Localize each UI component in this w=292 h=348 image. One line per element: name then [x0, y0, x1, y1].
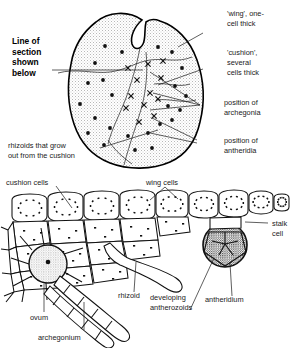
chloroplast-mark [77, 206, 79, 208]
cell-cushion [120, 218, 158, 242]
chloroplast-mark [175, 230, 177, 232]
label-antheridium: antheridium [205, 295, 244, 304]
antheridium-marker [108, 126, 112, 130]
label-stalk-cell: stalk cell [272, 219, 289, 238]
antheridium-marker [126, 134, 130, 138]
antheridium-marker [93, 61, 97, 65]
label-ovum: ovum [30, 313, 48, 322]
chloroplast-mark [224, 202, 226, 204]
stalk-cell [210, 217, 241, 229]
chloroplast-mark [33, 239, 35, 241]
chloroplast-mark [90, 205, 92, 207]
chloroplast-mark [119, 271, 121, 273]
chloroplast-mark [23, 230, 25, 232]
chloroplast-mark [149, 204, 151, 206]
chloroplast-mark [102, 269, 104, 271]
label-rhizoid: rhizoid [118, 291, 140, 300]
chloroplast-mark [182, 203, 184, 205]
chloroplast-mark [75, 230, 77, 232]
label-wing-cells: wing cells [145, 178, 178, 187]
chloroplast-mark [268, 201, 270, 203]
chloroplast-mark [252, 201, 254, 203]
chloroplast-mark [277, 201, 279, 203]
fern-prothallus-diagram: Line of section shown below 'wing', one-… [0, 0, 292, 348]
chloroplast-mark [126, 204, 128, 206]
antheridium-marker [178, 108, 182, 112]
chloroplast-mark [94, 227, 96, 229]
chloroplast-mark [112, 278, 114, 280]
chloroplast-mark [113, 205, 115, 207]
label-wing: 'wing', one- cell thick [227, 9, 266, 28]
chloroplast-mark [72, 260, 74, 262]
chloroplast-mark [182, 223, 184, 225]
chloroplast-mark [213, 203, 215, 205]
chloroplast-mark [76, 282, 78, 284]
label-line-of-section: Line of section shown below [12, 36, 44, 78]
chloroplast-mark [130, 226, 132, 228]
chloroplast-mark [79, 253, 81, 255]
chloroplast-mark [111, 229, 113, 231]
leader-stalk-cell [245, 222, 268, 223]
antheridium-marker [101, 78, 105, 82]
antheridium-marker [86, 81, 90, 85]
chloroplast-mark [40, 285, 42, 287]
chloroplast-mark [243, 202, 245, 204]
chloroplast-mark [194, 203, 196, 205]
chloroplast-mark [58, 228, 60, 230]
chloroplast-mark [68, 237, 70, 239]
label-antheridia: position of antheridia [224, 136, 260, 155]
chloroplast-mark [30, 276, 32, 278]
chloroplast-mark [143, 254, 145, 256]
label-archegonia: position of archegonia [224, 98, 261, 117]
antheridium-marker [103, 44, 107, 48]
label-archegonium: archegonium [38, 333, 81, 342]
chloroplast-mark [98, 249, 100, 251]
antheridium-marker [86, 131, 90, 135]
chloroplast-mark [41, 207, 43, 209]
chloroplast-mark [286, 201, 288, 203]
antheridium-marker [133, 148, 137, 152]
ovum-nucleus [46, 260, 51, 265]
cell-cushion [48, 220, 86, 244]
antheridium-marker [120, 50, 124, 54]
antheridium-marker [93, 116, 97, 120]
cell-cushion [84, 219, 122, 243]
label-cushion-cells: cushion cells [6, 178, 49, 187]
chloroplast-mark [150, 247, 152, 249]
antheridium-marker [170, 118, 174, 122]
chloroplast-mark [54, 206, 56, 208]
antheridium-marker [150, 146, 154, 150]
antheridium-marker [180, 66, 184, 70]
chloroplast-mark [104, 236, 106, 238]
leader-antheridium [230, 263, 232, 296]
chloroplast-mark [165, 221, 167, 223]
label-rhizoids: rhizoids that grow out from the cushion [8, 141, 75, 160]
antheridium-marker [110, 93, 114, 97]
thallus-outline [69, 13, 204, 168]
cell-cushion [123, 240, 160, 260]
chloroplast-mark [18, 207, 20, 209]
chloroplast-mark [147, 228, 149, 230]
chloroplast-mark [108, 258, 110, 260]
chloroplast-mark [133, 245, 135, 247]
prothallus-section-view [1, 186, 289, 348]
antheridium-marker [170, 50, 174, 54]
cell-cushion [157, 217, 190, 236]
antheridium-marker [156, 45, 160, 49]
chloroplast-mark [140, 235, 142, 237]
antheridium-marker [166, 104, 170, 108]
chloroplast-mark [161, 203, 163, 205]
label-cushion: 'cushion', several cells thick [227, 48, 259, 77]
prothallus-surface-view [52, 13, 203, 168]
chloroplast-mark [83, 275, 85, 277]
label-developing-antherozoids: developing antherozoids [150, 293, 193, 312]
cell-cushion [13, 221, 50, 247]
chloroplast-mark [27, 253, 29, 255]
antheridium-marker [78, 102, 82, 106]
